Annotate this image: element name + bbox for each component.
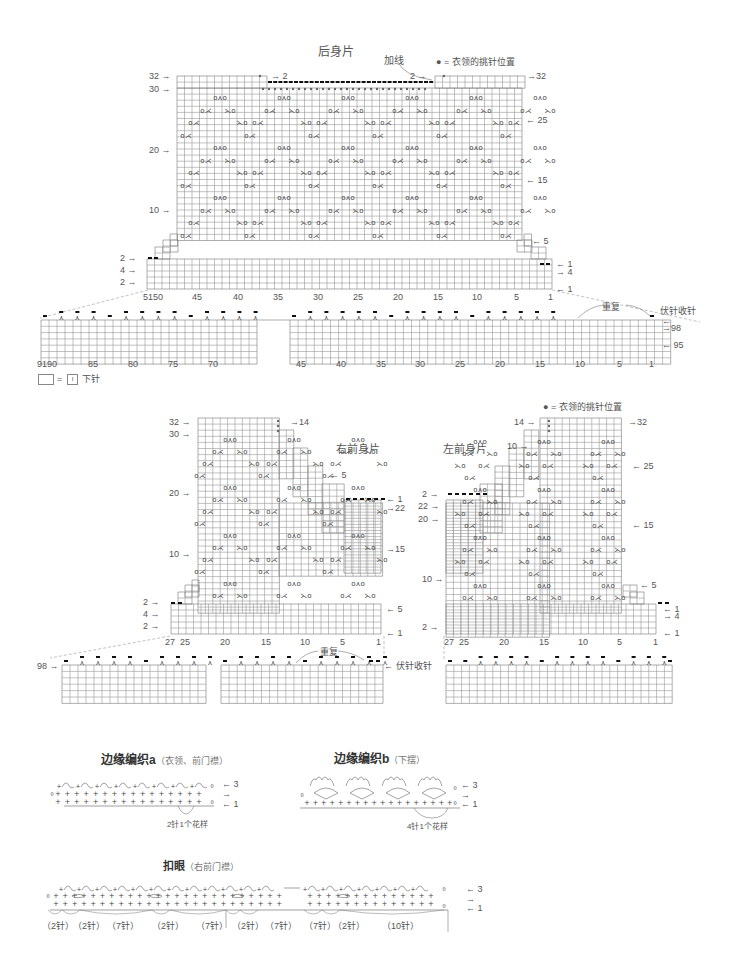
svg-text:+: + (267, 900, 273, 908)
svg-text:+: + (220, 892, 226, 900)
svg-text:+: + (165, 900, 171, 908)
svg-text:+: + (220, 900, 226, 908)
svg-text:+: + (76, 885, 81, 892)
svg-text:+: + (248, 892, 254, 900)
svg-text:+: + (193, 900, 199, 908)
stitch-spacing-label: （7针） (107, 921, 139, 931)
svg-text:0: 0 (46, 893, 49, 899)
svg-text:+: + (211, 900, 217, 908)
svg-text:+: + (148, 885, 153, 892)
svg-text:+: + (344, 892, 350, 900)
svg-text:+: + (391, 900, 397, 908)
svg-text:+: + (381, 892, 387, 900)
stitch-spacing-label: （10针） (382, 921, 419, 931)
svg-text:+: + (183, 892, 189, 900)
stitch-spacing-label: （7针） (196, 921, 228, 931)
svg-text:+: + (363, 900, 369, 908)
svg-text:+: + (276, 892, 282, 900)
svg-text:+: + (146, 900, 152, 908)
svg-text:+: + (174, 892, 180, 900)
svg-text:+: + (392, 885, 397, 892)
svg-text:+: + (220, 885, 225, 892)
svg-text:+: + (400, 892, 406, 900)
svg-text:+: + (391, 892, 397, 900)
svg-text:+: + (53, 900, 59, 908)
svg-text:+: + (193, 892, 199, 900)
svg-text:+: + (316, 892, 322, 900)
svg-text:+: + (137, 900, 143, 908)
stitch-spacing-label: （2针） (42, 921, 74, 931)
buttonhole-diagram: ++++++++++++++++++++++++++++++++++++++++… (0, 0, 732, 972)
svg-text:+: + (316, 900, 322, 908)
svg-text:+: + (354, 892, 360, 900)
svg-text:+: + (258, 892, 264, 900)
svg-text:+: + (72, 892, 78, 900)
svg-text:+: + (62, 892, 68, 900)
svg-text:+: + (267, 892, 273, 900)
svg-text:+: + (202, 900, 208, 908)
svg-text:+: + (400, 900, 406, 908)
svg-text:+: + (109, 900, 115, 908)
svg-text:+: + (381, 900, 387, 908)
svg-text:+: + (372, 900, 378, 908)
stitch-spacing-label: （7针） (265, 921, 297, 931)
stitch-spacing-label: （7针） (304, 921, 336, 931)
svg-text:+: + (320, 885, 325, 892)
svg-text:+: + (58, 885, 63, 892)
svg-text:+: + (72, 900, 78, 908)
svg-text:+: + (344, 900, 350, 908)
row-label: ← 1 (466, 903, 483, 913)
svg-text:+: + (53, 892, 59, 900)
svg-text:+: + (256, 885, 261, 892)
svg-text:0: 0 (442, 886, 445, 892)
row-label: ← 3 (466, 884, 483, 894)
svg-text:+: + (276, 900, 282, 908)
svg-text:+: + (258, 900, 264, 908)
svg-text:+: + (410, 885, 415, 892)
svg-text:+: + (211, 892, 217, 900)
svg-text:+: + (166, 885, 171, 892)
stitch-spacing-label: （2针） (232, 921, 264, 931)
svg-text:+: + (100, 892, 106, 900)
svg-text:+: + (146, 892, 152, 900)
svg-text:+: + (230, 900, 236, 908)
svg-text:+: + (338, 885, 343, 892)
svg-text:+: + (90, 892, 96, 900)
stitch-spacing-label: （2针） (73, 921, 105, 931)
svg-text:+: + (137, 892, 143, 900)
svg-text:+: + (184, 885, 189, 892)
svg-text:+: + (419, 900, 425, 908)
stitch-spacing-label: （2针） (333, 921, 365, 931)
svg-text:+: + (127, 892, 133, 900)
svg-text:+: + (127, 900, 133, 908)
svg-text:+: + (326, 892, 332, 900)
svg-text:+: + (90, 900, 96, 908)
svg-text:+: + (202, 892, 208, 900)
svg-text:+: + (174, 900, 180, 908)
svg-text:+: + (118, 892, 124, 900)
svg-text:+: + (118, 900, 124, 908)
svg-text:+: + (428, 892, 434, 900)
svg-text:0: 0 (442, 903, 445, 909)
svg-text:+: + (202, 885, 207, 892)
svg-text:+: + (419, 892, 425, 900)
svg-text:+: + (409, 892, 415, 900)
svg-text:+: + (109, 892, 115, 900)
svg-text:+: + (354, 900, 360, 908)
svg-text:+: + (326, 900, 332, 908)
stitch-spacing-label: （2针） (152, 921, 184, 931)
svg-text:+: + (183, 900, 189, 908)
svg-text:+: + (81, 900, 87, 908)
svg-text:+: + (307, 892, 313, 900)
svg-text:+: + (409, 900, 415, 908)
svg-text:+: + (307, 900, 313, 908)
svg-text:+: + (238, 885, 243, 892)
svg-text:+: + (248, 900, 254, 908)
svg-text:+: + (302, 885, 307, 892)
svg-text:+: + (230, 892, 236, 900)
svg-text:+: + (94, 885, 99, 892)
svg-text:+: + (363, 892, 369, 900)
svg-text:+: + (155, 892, 161, 900)
svg-text:+: + (155, 900, 161, 908)
svg-text:+: + (335, 900, 341, 908)
